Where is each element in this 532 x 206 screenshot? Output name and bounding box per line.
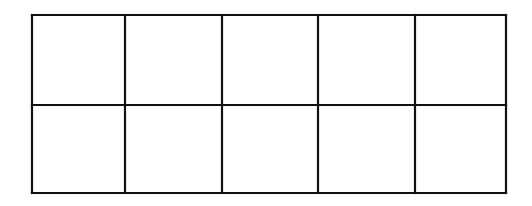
- grid-cell-r1-c3: [222, 15, 318, 105]
- grid-cell-r2-c2: [125, 105, 222, 193]
- grid-cell-r1-c5: [415, 15, 506, 105]
- grid-cell-r2-c4: [318, 105, 415, 193]
- grid-cell-r1-c1: [32, 15, 125, 105]
- grid-cell-r2-c3: [222, 105, 318, 193]
- ten-frame-grid: [0, 0, 532, 206]
- grid-cell-r1-c2: [125, 15, 222, 105]
- grid-cell-r1-c4: [318, 15, 415, 105]
- grid-cell-r2-c5: [415, 105, 506, 193]
- grid-cell-r2-c1: [32, 105, 125, 193]
